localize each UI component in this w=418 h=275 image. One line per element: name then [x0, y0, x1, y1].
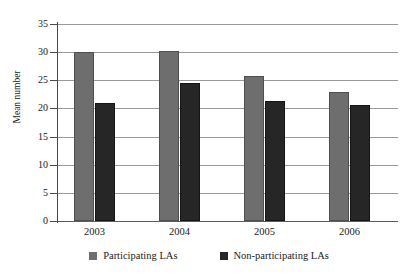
- legend-label: Non-participating LAs: [234, 250, 329, 261]
- legend-item-participating: Participating LAs: [89, 250, 177, 261]
- bar: [244, 76, 264, 221]
- bar-group: [244, 24, 285, 221]
- y-axis-tick-label: 25: [18, 75, 48, 85]
- x-axis-tick-label: 2004: [150, 226, 210, 237]
- bar: [265, 101, 285, 221]
- bar-group: [159, 24, 200, 221]
- y-axis-tick: [50, 137, 58, 138]
- bar: [74, 52, 94, 221]
- chart-legend: Participating LAs Non-participating LAs: [0, 250, 418, 261]
- y-axis-tick: [50, 165, 58, 166]
- legend-label: Participating LAs: [103, 250, 177, 261]
- y-axis-tick: [50, 24, 58, 25]
- y-axis-tick-label: 5: [18, 188, 48, 198]
- bar-chart: Mean number 05101520253035 Participating…: [0, 0, 418, 275]
- bar: [95, 103, 115, 221]
- x-axis-tick-label: 2005: [235, 226, 295, 237]
- bar-group: [329, 24, 370, 221]
- y-axis-tick: [50, 52, 58, 53]
- y-axis-tick-label: 15: [18, 132, 48, 142]
- x-axis-tick-label: 2003: [65, 226, 125, 237]
- y-axis-tick-labels: 05101520253035: [16, 0, 48, 275]
- gridline: [58, 221, 398, 222]
- y-axis-tick-label: 0: [18, 216, 48, 226]
- bar: [180, 83, 200, 221]
- bar: [329, 92, 349, 221]
- y-axis-tick: [50, 80, 58, 81]
- y-axis-tick: [50, 108, 58, 109]
- y-axis-tick-label: 30: [18, 47, 48, 57]
- bar: [350, 105, 370, 221]
- y-axis-tick: [50, 193, 58, 194]
- bar: [159, 51, 179, 221]
- x-axis-tick-label: 2006: [320, 226, 380, 237]
- plot-area: [58, 24, 398, 221]
- y-axis-tick-label: 35: [18, 19, 48, 29]
- y-axis-tick-label: 20: [18, 103, 48, 113]
- legend-swatch-icon: [89, 252, 97, 260]
- bar-group: [74, 24, 115, 221]
- y-axis-tick: [50, 221, 58, 222]
- y-axis-tick-label: 10: [18, 160, 48, 170]
- legend-item-non-participating: Non-participating LAs: [220, 250, 329, 261]
- legend-swatch-icon: [220, 252, 228, 260]
